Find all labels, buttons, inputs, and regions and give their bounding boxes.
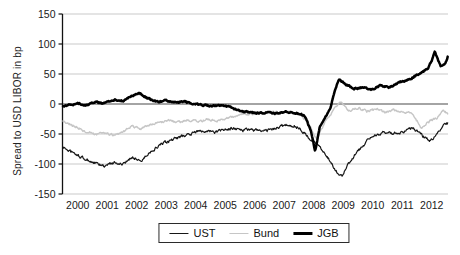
chart-canvas: 150100500-50-100-15020002001200220032004…	[0, 0, 460, 218]
ust-line-icon	[169, 233, 188, 234]
x-tick-label: 2011	[391, 199, 414, 211]
x-tick-label: 2009	[332, 199, 356, 211]
y-tick-label: -100	[34, 158, 55, 170]
chart-figure: Spread to USD LIBOR in bp 150100500-50-1…	[0, 0, 460, 255]
legend-label-bund: Bund	[253, 227, 279, 239]
x-tick-label: 2008	[302, 199, 326, 211]
legend-item-ust: UST	[169, 227, 215, 239]
x-tick-label: 2001	[96, 199, 120, 211]
x-tick-label: 2010	[361, 199, 385, 211]
jgb-line-icon	[293, 232, 312, 235]
y-tick-label: -50	[40, 128, 55, 140]
ust-series-line	[63, 123, 448, 176]
x-tick-label: 2002	[125, 199, 149, 211]
x-tick-label: 2012	[420, 199, 444, 211]
legend-item-bund: Bund	[229, 227, 279, 239]
x-tick-label: 2006	[243, 199, 267, 211]
legend-label-ust: UST	[193, 227, 215, 239]
legend-item-jgb: JGB	[293, 227, 338, 239]
x-tick-label: 2003	[155, 199, 179, 211]
jgb-series-line	[63, 52, 448, 151]
y-tick-label: -150	[34, 188, 55, 200]
y-tick-label: 150	[38, 8, 56, 20]
chart-legend: UST Bund JGB	[158, 223, 349, 243]
x-tick-label: 2007	[273, 199, 297, 211]
legend-label-jgb: JGB	[317, 227, 338, 239]
bund-line-icon	[229, 233, 248, 234]
x-tick-label: 2004	[184, 199, 208, 211]
y-tick-label: 50	[44, 68, 56, 80]
x-tick-label: 2005	[214, 199, 238, 211]
x-tick-label: 2000	[66, 199, 90, 211]
y-tick-label: 0	[50, 98, 56, 110]
y-tick-label: 100	[38, 38, 56, 50]
